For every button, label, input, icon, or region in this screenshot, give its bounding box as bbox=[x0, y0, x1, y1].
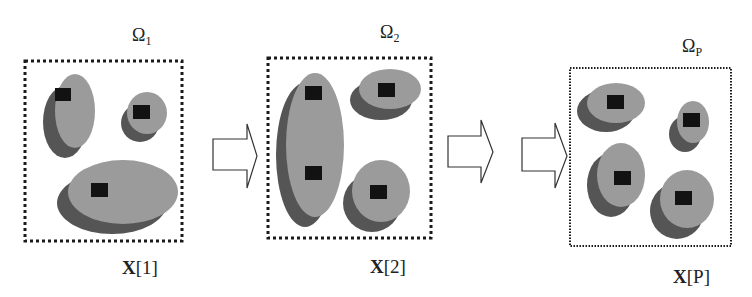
center-marker bbox=[305, 166, 322, 180]
signal-symbol: X bbox=[122, 257, 136, 278]
signal-label: X[2] bbox=[370, 256, 406, 277]
omega-subscript: P bbox=[695, 45, 702, 59]
region-blob bbox=[343, 160, 410, 232]
frame-1: Ω1X[1] bbox=[25, 25, 182, 278]
right-arrow-icon bbox=[213, 124, 257, 188]
signal-symbol: X bbox=[673, 266, 687, 287]
center-marker bbox=[91, 183, 108, 197]
region-blob bbox=[350, 69, 421, 120]
frames-layer: Ω1X[1]Ω2X[2]ΩPX[P] bbox=[25, 22, 731, 287]
region-blob bbox=[43, 74, 95, 158]
region-blob bbox=[276, 73, 344, 227]
signal-index: [1] bbox=[136, 257, 158, 278]
center-marker bbox=[305, 86, 322, 100]
omega-symbol: Ω bbox=[682, 36, 695, 56]
domain-label: Ω2 bbox=[380, 22, 399, 45]
domain-decomposition-diagram: Ω1X[1]Ω2X[2]ΩPX[P] bbox=[0, 0, 752, 297]
region-blob bbox=[587, 143, 645, 217]
center-marker bbox=[370, 185, 387, 199]
omega-subscript: 2 bbox=[393, 31, 399, 45]
region-blob bbox=[669, 101, 709, 152]
signal-symbol: X bbox=[370, 256, 384, 277]
omega-subscript: 1 bbox=[145, 34, 151, 48]
frame-2: Ω2X[2] bbox=[268, 22, 431, 277]
frame-3: ΩPX[P] bbox=[570, 36, 731, 287]
right-arrow-icon bbox=[448, 120, 493, 183]
center-marker bbox=[607, 95, 624, 109]
region-blob bbox=[650, 170, 714, 239]
center-marker bbox=[683, 113, 700, 127]
signal-index: [2] bbox=[384, 256, 406, 277]
blob-body bbox=[55, 74, 95, 148]
region-blob bbox=[121, 92, 167, 142]
center-marker bbox=[675, 191, 692, 205]
center-marker bbox=[378, 83, 395, 97]
omega-symbol: Ω bbox=[380, 22, 393, 42]
right-arrow-icon bbox=[522, 123, 567, 188]
center-marker bbox=[133, 105, 150, 119]
blob-body bbox=[68, 160, 178, 224]
signal-index: [P] bbox=[687, 266, 710, 287]
signal-label: X[1] bbox=[122, 257, 158, 278]
center-marker bbox=[614, 171, 631, 185]
region-blob bbox=[57, 160, 178, 234]
center-marker bbox=[55, 88, 71, 101]
domain-label: ΩP bbox=[682, 36, 702, 59]
domain-label: Ω1 bbox=[132, 25, 151, 48]
region-blob bbox=[577, 83, 645, 132]
signal-label: X[P] bbox=[673, 266, 710, 287]
omega-symbol: Ω bbox=[132, 25, 145, 45]
